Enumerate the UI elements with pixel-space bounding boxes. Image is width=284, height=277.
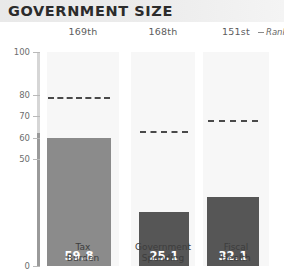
chart-plot-area: 169th 168th 151st Rank 100807060500 59.8… xyxy=(0,22,284,277)
y-axis-line xyxy=(37,133,40,266)
reference-line-tax-burden xyxy=(48,97,110,99)
card-header: GOVERNMENT SIZE xyxy=(0,0,284,22)
rank-legend: Rank xyxy=(258,27,284,37)
page-title: GOVERNMENT SIZE xyxy=(8,3,173,19)
dashed-line-icon xyxy=(258,32,264,33)
y-axis-tick-label: 50 xyxy=(8,154,30,164)
y-axis-tick-mark xyxy=(33,159,40,160)
y-axis-tick-label: 70 xyxy=(8,111,30,121)
category-label-fiscal-health: Fiscal Health xyxy=(197,242,275,264)
rank-label-government-spending: 168th xyxy=(131,26,195,38)
y-axis-tick-mark xyxy=(33,95,40,96)
y-axis-tick-mark xyxy=(33,116,40,117)
reference-line-fiscal-health xyxy=(208,120,258,122)
rank-label-tax-burden: 169th xyxy=(47,26,119,38)
y-axis-tick-mark xyxy=(33,266,40,267)
category-label-government-spending: Government Spending xyxy=(125,242,201,264)
category-label-tax-burden: Tax Burden xyxy=(41,242,125,264)
y-axis-tick-label: 80 xyxy=(8,90,30,100)
y-axis-tick-mark xyxy=(33,138,40,139)
y-axis-tick-label: 60 xyxy=(8,133,30,143)
government-size-chart-card: GOVERNMENT SIZE 169th 168th 151st Rank 1… xyxy=(0,0,284,277)
reference-line-government-spending xyxy=(140,131,188,133)
rank-legend-label: Rank xyxy=(266,27,284,37)
y-axis-tick-label: 0 xyxy=(8,261,30,271)
y-axis-tick-mark xyxy=(33,52,40,53)
y-axis-tick-label: 100 xyxy=(8,47,30,57)
